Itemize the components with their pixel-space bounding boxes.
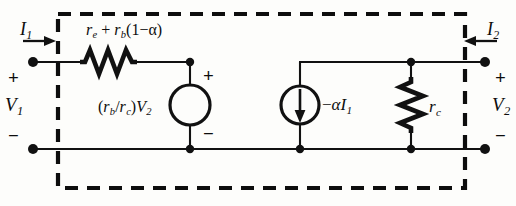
port-right-voltage-label: V2 — [492, 95, 510, 118]
port-right-polarity-minus: − — [495, 126, 506, 145]
terminal-dot-right-bottom — [480, 144, 490, 154]
voltage-source-polarity-minus: − — [203, 124, 214, 143]
current-arrow-i1-head — [44, 36, 56, 46]
shunt-resistor-label: rc — [429, 98, 441, 118]
terminal-dot-right-top — [480, 57, 490, 67]
terminal-dot-left-top — [28, 57, 38, 67]
voltage-source-label: (rb/rc)V2 — [98, 99, 152, 118]
node-dot-csource-bottom — [296, 145, 304, 153]
port-right-current-label: I2 — [487, 20, 499, 42]
port-left-polarity-plus: + — [8, 68, 19, 87]
series-resistor-label: re + rb(1−α) — [86, 22, 162, 41]
current-source-arrow-head — [295, 110, 306, 123]
shunt-resistor-symbol — [400, 77, 423, 133]
terminal-dot-left-bottom — [28, 144, 38, 154]
node-dot-shunt-resistor-bottom — [407, 145, 415, 153]
node-dot-vsource-bottom — [186, 145, 194, 153]
voltage-source-polarity-plus: + — [203, 66, 214, 85]
port-left-current-label: I1 — [20, 20, 32, 42]
circuit-diagram: I1 + V1 − I2 + V2 − re + rb(1−α) (rb/rc)… — [0, 0, 516, 206]
port-right-polarity-plus: + — [495, 68, 506, 87]
current-source-label: −αI1 — [322, 96, 352, 116]
port-left-voltage-label: V1 — [5, 95, 23, 118]
port-left-polarity-minus: − — [8, 126, 19, 145]
series-resistor-symbol — [80, 50, 137, 74]
voltage-source-circle — [170, 85, 210, 125]
